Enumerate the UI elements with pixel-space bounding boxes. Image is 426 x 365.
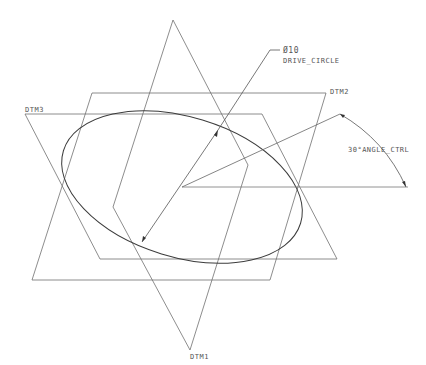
label-drive-circle: DRIVE_CIRCLE — [283, 57, 340, 65]
label-angle-ctrl: 30°ANGLE_CTRL — [348, 146, 409, 154]
label-dtm1: DTM1 — [190, 353, 209, 361]
angled-control-line — [182, 114, 340, 187]
label-dtm2: DTM2 — [330, 88, 349, 96]
datum-plane-dtm2 — [32, 93, 326, 280]
arrowhead-icon — [402, 181, 406, 187]
label-diameter: Ø10 — [283, 45, 299, 55]
arrowhead-icon — [340, 114, 345, 118]
drawing-canvas: DTM3 DTM2 DTM1 Ø10 DRIVE_CIRCLE 30°ANGLE… — [0, 0, 426, 365]
diameter-leader-line — [218, 50, 280, 130]
label-dtm3: DTM3 — [25, 106, 44, 114]
diameter-dimension-line — [142, 130, 218, 242]
arrowhead-icon — [214, 130, 218, 137]
